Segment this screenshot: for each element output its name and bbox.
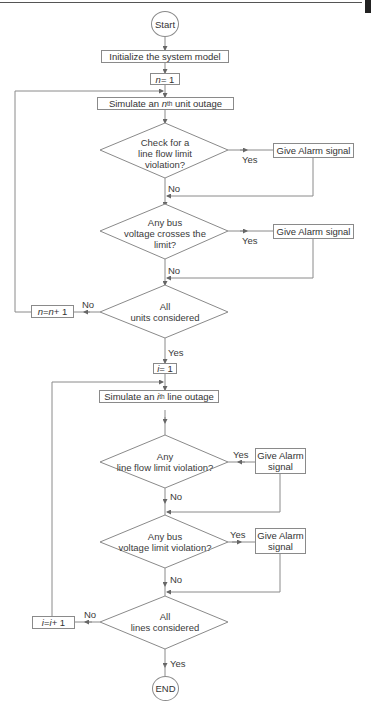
decision-text-line: Any bus (115, 217, 215, 228)
alarm-box-line-bus-voltage: Give Alarm signal (255, 528, 306, 554)
alarm-label: signal (268, 541, 293, 552)
no-label: No (170, 491, 182, 502)
decision-bus-voltage-line-text: Any bus voltage limit violation? (105, 531, 225, 553)
yes-label: Yes (242, 154, 258, 165)
no-label: No (82, 299, 94, 310)
i-init-box: i = 1 (153, 363, 177, 374)
alarm-label: Give Alarm (257, 530, 303, 541)
n-increment-box: n = n + 1 (31, 305, 74, 318)
plus-one: + 1 (54, 306, 67, 317)
decision-all-lines-text: All lines considered (120, 611, 210, 633)
i-init-value: = 1 (159, 363, 172, 374)
simulate-suffix: unit outage (175, 98, 222, 109)
alarm-box-unit-bus-voltage: Give Alarm signal (273, 224, 354, 239)
no-label: No (168, 265, 180, 276)
decision-text-line: Any bus (105, 531, 225, 542)
decision-text-line: Check for a (120, 137, 210, 148)
no-label: No (84, 609, 96, 620)
decision-text-line: units considered (120, 312, 210, 323)
decision-text-line: voltage crosses the (115, 228, 215, 239)
yes-label: Yes (233, 449, 249, 460)
decision-text-line: violation? (120, 159, 210, 170)
alarm-box-line-flow: Give Alarm signal (255, 448, 306, 474)
start-terminal: Start (151, 11, 179, 37)
yes-label: Yes (230, 529, 246, 540)
no-label: No (170, 574, 182, 585)
decision-line-flow-line-text: Any line flow limit violation? (105, 451, 225, 473)
yes-label: Yes (242, 235, 258, 246)
plus-one: + 1 (52, 617, 65, 628)
initialize-model-box: Initialize the system model (101, 50, 229, 63)
decision-text-line: line flow limit violation? (105, 462, 225, 473)
alarm-label: Give Alarm (257, 450, 303, 461)
alarm-label: Give Alarm signal (277, 145, 351, 156)
decision-text-line: limit? (115, 239, 215, 250)
decision-all-units-text: All units considered (120, 301, 210, 323)
alarm-label: Give Alarm signal (277, 226, 351, 237)
i-increment-box: i = i + 1 (32, 616, 75, 629)
decision-line-flow-unit-text: Check for a line flow limit violation? (120, 137, 210, 170)
no-label: No (168, 183, 180, 194)
decision-text-line: lines considered (120, 622, 210, 633)
decision-text-line: Any (105, 451, 225, 462)
start-label: Start (155, 19, 175, 30)
decision-text-line: line flow limit (120, 148, 210, 159)
yes-label: Yes (170, 658, 186, 669)
end-terminal: END (152, 676, 179, 701)
end-label: END (155, 683, 175, 694)
simulate-suffix: line outage (167, 391, 213, 402)
simulate-unit-outage-box: Simulate an nth unit outage (97, 97, 234, 110)
n-init-value: = 1 (161, 74, 174, 85)
decision-text-line: All (120, 611, 210, 622)
alarm-label: signal (268, 461, 293, 472)
decision-text-line: voltage limit violation? (105, 542, 225, 553)
initialize-label: Initialize the system model (109, 51, 220, 62)
alarm-box-unit-line-flow: Give Alarm signal (273, 143, 354, 158)
decision-text-line: All (120, 301, 210, 312)
simulate-line-outage-box: Simulate an ith line outage (99, 390, 219, 403)
decision-bus-voltage-unit-text: Any bus voltage crosses the limit? (115, 217, 215, 250)
n-init-box: n = 1 (150, 73, 180, 85)
simulate-prefix: Simulate an (109, 98, 159, 109)
yes-label: Yes (168, 347, 184, 358)
simulate-prefix: Simulate an (104, 391, 154, 402)
